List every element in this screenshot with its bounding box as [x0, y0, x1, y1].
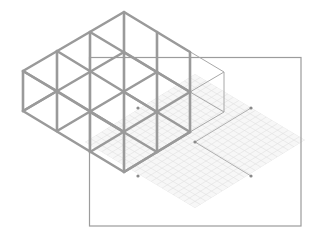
isometric-diagram [0, 0, 319, 242]
